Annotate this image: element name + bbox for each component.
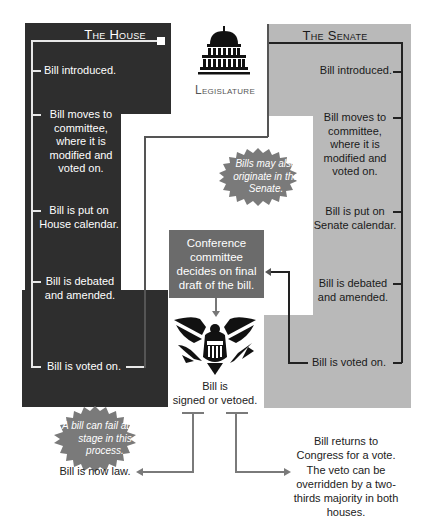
house-step-3: Bill is put on House calendar. [38,204,120,231]
conference-to-eagle-line [215,298,217,312]
legislature-bottom-line [144,136,268,138]
senate-exit-vertical [288,271,290,363]
house-vertical-line [31,40,33,367]
house-exit-line [126,366,144,368]
house-step-4: Bill is debated and amended. [42,275,118,302]
senate-origin-text: Bills may also originate in the Senate. [217,148,315,206]
senate-exit-horizontal [269,271,289,273]
senate-tick [393,71,402,73]
law-branch-horizontal [142,471,194,473]
house-step-2: Bill moves to committee, where it is mod… [44,108,118,176]
senate-exit-line [288,362,308,364]
senate-origin-callout: Bills may also originate in the Senate. [217,148,299,206]
fail-text: A bill can fail at any stage in this pro… [52,406,158,472]
capitol-building-icon [196,26,252,76]
house-to-conference-line [144,136,146,368]
presidential-eagle-icon [172,315,258,380]
house-top-line [32,40,160,42]
legislature-right-line [267,24,269,137]
law-branch-vertical [192,412,194,473]
conference-committee-box: Conference committee decides on final dr… [169,230,264,298]
senate-step-1: Bill introduced. [308,64,392,78]
senate-step-3: Bill is put on Senate calendar. [313,205,397,232]
senate-top-line [268,42,403,44]
veto-branch-vertical [235,412,237,473]
arrow-left-icon [136,468,143,476]
house-tick [31,70,41,72]
house-start-marker [157,37,165,45]
senate-step-5: Bill is voted on. [308,356,390,370]
house-tick [31,366,41,368]
house-step-1: Bill introduced. [44,64,124,78]
veto-branch-top [226,412,248,414]
legislature-label: Legislature [180,83,270,97]
outcome-law: Bill is now law. [55,465,135,479]
house-tick [31,114,41,116]
veto-branch-horizontal [235,471,285,473]
senate-tick [393,283,402,285]
fail-callout: A bill can fail at any stage in this pro… [52,406,138,472]
senate-step-4: Bill is debated and amended. [315,277,391,304]
senate-tick [393,362,402,364]
house-panel-bottom [22,290,168,407]
senate-title: The Senate [280,28,390,43]
outcome-veto: Bill returns to Congress for a vote. The… [290,434,402,520]
executive-label-2: signed or vetoed. [160,394,270,408]
senate-tick [393,117,402,119]
senate-step-2: Bill moves to committee, where it is mod… [318,111,392,179]
house-step-5: Bill is voted on. [42,360,126,374]
arrow-left-icon [265,268,271,276]
senate-vertical-line [401,42,403,363]
house-tick [31,281,41,283]
executive-label-1: Bill is [170,380,260,394]
